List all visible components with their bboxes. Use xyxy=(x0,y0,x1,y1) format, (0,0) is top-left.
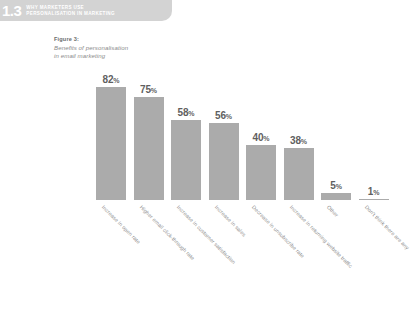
bar-value-label-8: 1% xyxy=(368,186,379,197)
bar-value-label-1: 82% xyxy=(103,74,120,85)
bar-chart: 82%75%58%56%40%38%5%1% Increase in open … xyxy=(0,0,410,317)
bar-7: 5% xyxy=(321,62,351,200)
bar-rect-3 xyxy=(171,120,201,200)
bar-value-label-5: 40% xyxy=(253,132,270,143)
bar-rect-7 xyxy=(321,193,351,200)
bar-4: 56% xyxy=(209,62,239,200)
bar-1: 82% xyxy=(96,62,126,200)
bar-2: 75% xyxy=(134,62,164,200)
bar-3: 58% xyxy=(171,62,201,200)
bar-value-label-2: 75% xyxy=(140,84,157,95)
bar-rect-2 xyxy=(134,97,164,201)
bar-rect-4 xyxy=(209,123,239,200)
bar-rect-1 xyxy=(96,87,126,200)
chart-plot-area: 82%75%58%56%40%38%5%1% xyxy=(96,62,396,200)
chart-category-labels: Increase in open rateHigher email click-… xyxy=(96,200,396,317)
bar-5: 40% xyxy=(246,62,276,200)
category-label-6: Increase in returning website traffic xyxy=(288,204,353,269)
category-label-1: Increase in open rate xyxy=(101,204,142,245)
bar-value-label-4: 56% xyxy=(215,110,232,121)
bar-rect-6 xyxy=(284,148,314,200)
category-label-8: Don't think there are any xyxy=(363,204,410,251)
bar-value-label-7: 5% xyxy=(330,180,341,191)
bar-value-label-6: 38% xyxy=(290,135,307,146)
bar-value-label-3: 58% xyxy=(178,107,195,118)
category-label-7: Other xyxy=(326,204,340,218)
bar-8: 1% xyxy=(359,62,389,200)
bar-6: 38% xyxy=(284,62,314,200)
bar-rect-5 xyxy=(246,145,276,200)
category-label-4: Increase in sales xyxy=(213,204,247,238)
